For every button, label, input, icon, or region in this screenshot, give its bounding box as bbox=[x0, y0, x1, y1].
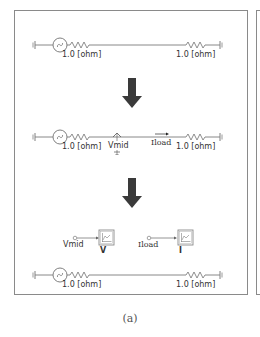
down-arrow-icon bbox=[122, 78, 142, 108]
voltage-signal-label: Vmid bbox=[63, 240, 84, 249]
resistor-left-icon bbox=[70, 134, 89, 140]
down-arrow-icon bbox=[122, 178, 142, 208]
current-meter: Iload I bbox=[138, 230, 193, 255]
scope-meter-icon bbox=[178, 230, 193, 245]
resistor-right-icon bbox=[186, 272, 205, 278]
resistor-left-label: 1.0 [ohm] bbox=[62, 280, 101, 289]
resistor-right-label: 1.0 [ohm] bbox=[176, 50, 215, 59]
figure-caption: (a) bbox=[0, 312, 260, 325]
ground-right-icon bbox=[220, 41, 222, 49]
ground-right-icon bbox=[220, 271, 222, 279]
stage-2-circuit: Vmid Iload 1.0 [ohm] 1.0 [ohm] bbox=[33, 130, 222, 155]
voltage-meter-label: V bbox=[100, 246, 107, 255]
resistor-left-icon bbox=[70, 272, 89, 278]
current-probe-label: Iload bbox=[151, 138, 171, 147]
resistor-right-label: 1.0 [ohm] bbox=[176, 280, 215, 289]
current-signal-label: Iload bbox=[138, 240, 158, 249]
ground-left-icon bbox=[33, 271, 35, 279]
scope-meter-icon bbox=[99, 230, 114, 245]
resistor-left-icon bbox=[70, 42, 89, 48]
resistor-right-label: 1.0 [ohm] bbox=[176, 142, 215, 151]
resistor-right-icon bbox=[186, 42, 205, 48]
ground-right-icon bbox=[220, 133, 222, 141]
resistor-left-label: 1.0 [ohm] bbox=[62, 50, 101, 59]
current-probe-icon bbox=[155, 133, 169, 136]
ground-left-icon bbox=[33, 41, 35, 49]
voltage-probe-label: Vmid bbox=[108, 141, 129, 150]
current-meter-label: I bbox=[179, 246, 182, 255]
circuit-diagram: 1.0 [ohm] 1.0 [ohm] Vmid Iload 1.0 [ohm] bbox=[0, 0, 260, 337]
resistor-left-label: 1.0 [ohm] bbox=[62, 142, 101, 151]
stage-1-circuit: 1.0 [ohm] 1.0 [ohm] bbox=[33, 38, 222, 59]
voltage-meter: Vmid V bbox=[63, 230, 114, 255]
resistor-right-icon bbox=[186, 134, 205, 140]
stage-3-circuit: 1.0 [ohm] 1.0 [ohm] bbox=[33, 268, 222, 289]
ground-left-icon bbox=[33, 133, 35, 141]
